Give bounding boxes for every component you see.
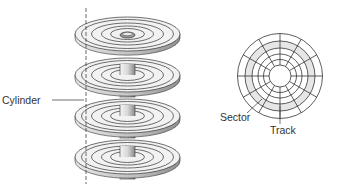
disk-face [238,34,323,119]
platter-1 [75,17,180,55]
cylinder-label-group: Cylinder [2,94,84,106]
sector-label: Sector [220,111,251,123]
platter-4 [75,140,180,178]
platter-stack [75,8,180,184]
cylinder-label: Cylinder [2,94,41,106]
track-label: Track [270,124,297,136]
disk-geometry-diagram: Cylinder Sector [0,0,337,193]
platter-2 [75,58,180,96]
platter-3 [75,99,180,137]
